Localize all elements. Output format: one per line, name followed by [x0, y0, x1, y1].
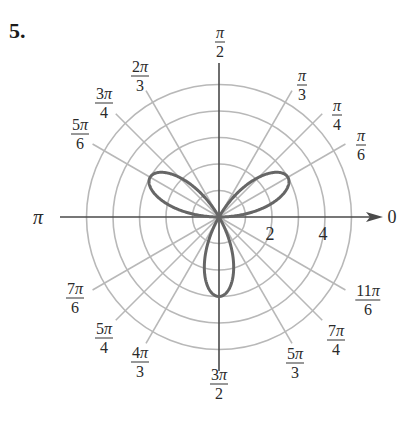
- fraction-numerator: 5π: [286, 346, 304, 364]
- angle-ray: [93, 144, 219, 217]
- angle-ray: [93, 217, 219, 290]
- angle-label-0: 0: [388, 207, 397, 228]
- fraction-numerator: π: [332, 98, 342, 116]
- fraction-denominator: 6: [364, 301, 372, 318]
- angle-label-30: π6: [356, 128, 366, 163]
- fraction-denominator: 3: [136, 77, 144, 94]
- radial-tick-label: 2: [266, 224, 275, 245]
- fraction-numerator: 11π: [355, 283, 380, 301]
- angle-label-120: 2π3: [131, 59, 149, 94]
- fraction-numerator: π: [215, 25, 225, 43]
- angle-label-90: π2: [215, 25, 225, 60]
- polar-plot: [0, 0, 415, 424]
- fraction-denominator: 4: [332, 341, 340, 358]
- angle-label-210: 7π6: [66, 281, 84, 316]
- fraction-denominator: 4: [333, 116, 341, 133]
- angle-ray: [219, 144, 345, 217]
- angle-label-150: 5π6: [71, 117, 89, 152]
- fraction-numerator: 7π: [327, 323, 345, 341]
- fraction-denominator: 4: [100, 339, 108, 356]
- fraction-numerator: 7π: [66, 281, 84, 299]
- fraction-numerator: 2π: [131, 59, 149, 77]
- fraction-denominator: 3: [136, 363, 144, 380]
- fraction-numerator: π: [297, 68, 307, 86]
- angle-label-240: 4π3: [131, 345, 149, 380]
- angle-label-330: 11π6: [355, 283, 380, 318]
- angle-ray: [116, 114, 219, 217]
- angle-label-180: π: [33, 206, 43, 229]
- angle-ray: [146, 217, 219, 343]
- fraction-denominator: 2: [216, 43, 224, 60]
- angle-label-270: 3π2: [210, 367, 228, 402]
- angle-label-225: 5π4: [95, 321, 113, 356]
- fraction-denominator: 6: [76, 135, 84, 152]
- fraction-numerator: 5π: [95, 321, 113, 339]
- angle-label-135: 3π4: [95, 86, 113, 121]
- fraction-denominator: 4: [100, 104, 108, 121]
- fraction-numerator: 4π: [131, 345, 149, 363]
- angle-label-60: π3: [297, 68, 307, 103]
- angle-label-300: 5π3: [286, 346, 304, 381]
- fraction-denominator: 6: [71, 299, 79, 316]
- radial-tick-label: 4: [319, 224, 328, 245]
- angle-ray: [219, 114, 322, 217]
- fraction-numerator: π: [356, 128, 366, 146]
- angle-label-315: 7π4: [327, 323, 345, 358]
- fraction-denominator: 2: [215, 385, 223, 402]
- fraction-denominator: 3: [291, 364, 299, 381]
- fraction-numerator: 3π: [210, 367, 228, 385]
- fraction-numerator: 5π: [71, 117, 89, 135]
- fraction-denominator: 3: [298, 86, 306, 103]
- angle-label-45: π4: [332, 98, 342, 133]
- fraction-numerator: 3π: [95, 86, 113, 104]
- angle-ray: [219, 217, 292, 343]
- fraction-denominator: 6: [357, 146, 365, 163]
